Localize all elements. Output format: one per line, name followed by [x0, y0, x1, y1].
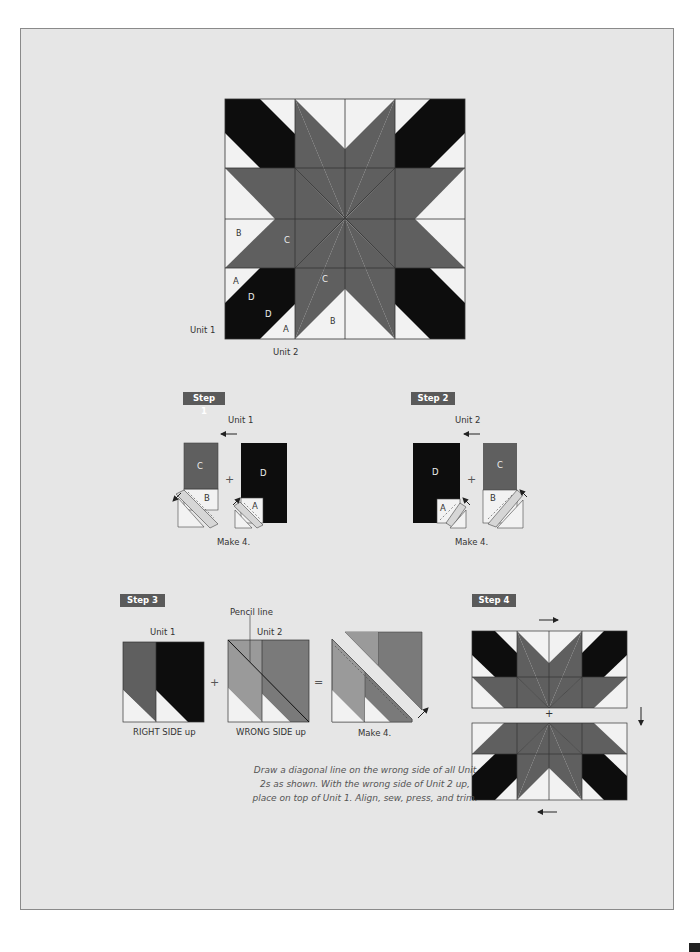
step4-bottom-half: [472, 723, 627, 800]
diagram-canvas: [0, 0, 700, 952]
step1-piece-c: C: [197, 462, 203, 471]
piece-label-a: A: [233, 277, 239, 286]
step4-top-half: [472, 631, 627, 708]
wrong-side-up-label: WRONG SIDE up: [236, 728, 306, 737]
plus-sign: +: [545, 709, 553, 719]
step3-tag: Step 3: [120, 594, 165, 607]
piece-label-c: C: [322, 275, 328, 284]
piece-label-b: B: [236, 230, 242, 238]
step2-unit-label: Unit 2: [455, 416, 480, 425]
step2-piece-c: C: [497, 461, 503, 470]
instructions-text: Draw a diagonal line on the wrong side o…: [250, 763, 480, 805]
step3-make-label: Make 4.: [358, 729, 391, 738]
plus-sign: +: [467, 474, 476, 485]
step4-diagram: [472, 620, 641, 812]
step1-piece-b: B: [204, 494, 210, 503]
page-corner-mark: [689, 943, 700, 952]
main-quilt-block: [225, 99, 465, 339]
step2-tag: Step 2: [411, 392, 455, 405]
step1-unit-label: Unit 1: [228, 416, 253, 425]
arrow-diagonal-icon: [418, 708, 428, 718]
step2-piece-b: B: [490, 494, 496, 503]
step3-unit2-label: Unit 2: [257, 628, 282, 637]
pencil-line-label: Pencil line: [230, 608, 273, 617]
step2-make-label: Make 4.: [455, 538, 488, 547]
step1-piece-a: A: [252, 502, 258, 511]
piece-label-c: C: [284, 236, 290, 245]
step1-make-label: Make 4.: [217, 538, 250, 547]
step2-piece-a: A: [440, 504, 446, 513]
plus-sign: +: [210, 677, 219, 688]
piece-label-d: D: [265, 310, 272, 319]
piece-label-b: B: [330, 318, 336, 326]
step2-piece-d: D: [432, 468, 439, 477]
plus-sign: +: [225, 474, 234, 485]
piece-label-d: D: [248, 293, 255, 302]
step1-tag: Step 1: [183, 392, 225, 405]
step1-piece-d: D: [260, 469, 267, 478]
equals-sign: =: [314, 677, 323, 688]
step3-unit1-label: Unit 1: [150, 628, 175, 637]
step4-tag: Step 4: [472, 594, 516, 607]
arrow-diagonal-icon: [463, 498, 470, 505]
piece-label-a: A: [283, 325, 289, 334]
right-side-up-label: RIGHT SIDE up: [133, 728, 196, 737]
unit1-label: Unit 1: [190, 326, 215, 335]
unit2-label: Unit 2: [273, 348, 298, 357]
